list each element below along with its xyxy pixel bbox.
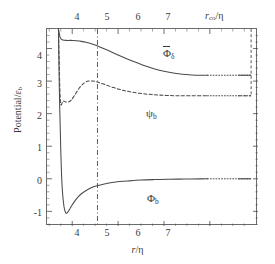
y-tick-label-minus-1: -1 (20, 208, 42, 218)
psi-b-subscript: b (153, 112, 157, 121)
bottom-x-axis-unit: /η (135, 244, 143, 255)
bottom-x-axis-label: r/η (0, 244, 275, 255)
curve-label-psi-b: ψb (146, 107, 157, 121)
phi-delta-subscript: δ (171, 52, 175, 61)
psi-b-symbol: ψ (146, 107, 153, 119)
phi-delta-symbol: Φ (163, 47, 171, 59)
phi-b-subscript: b (155, 197, 159, 206)
bottom-x-tick-label-4: 4 (68, 228, 86, 238)
curves (58, 29, 251, 213)
cutoff-unit: /η (216, 10, 224, 21)
phi-b-symbol: Φ (147, 192, 155, 204)
top-x-tick-label-5: 5 (98, 12, 116, 22)
top-x-axis-label: rco/η (205, 10, 224, 22)
top-x-tick-label-7: 7 (159, 12, 177, 22)
y-tick-label-0: 0 (20, 176, 42, 186)
y-tick-label-1: 1 (20, 143, 42, 153)
curve-Phi-b (58, 29, 207, 213)
y-tick-label-4: 4 (20, 51, 42, 61)
y-axis-label-symbol: ε (12, 91, 23, 95)
y-tick-label-3: 3 (20, 79, 42, 89)
y-tick-label-2: 2 (20, 111, 42, 121)
top-x-tick-label-4: 4 (68, 12, 86, 22)
curve-label-phi-b: Φb (147, 192, 159, 206)
bottom-x-tick-label-5: 5 (98, 228, 116, 238)
y-axis-label: Potential/εb (12, 40, 24, 180)
potential-figure: Potential/εb 4 3 2 1 0 -1 4 5 6 7 rco/η … (0, 0, 275, 264)
bottom-x-tick-label-7: 7 (159, 228, 177, 238)
curve-label-phi-delta: Φδ (163, 47, 175, 61)
bottom-x-tick-label-6: 6 (129, 228, 147, 238)
curve-psi-b (58, 29, 207, 105)
top-x-tick-label-6: 6 (129, 12, 147, 22)
cutoff-subscript: co (209, 14, 216, 22)
curve-Phi-bar-delta (58, 29, 207, 75)
